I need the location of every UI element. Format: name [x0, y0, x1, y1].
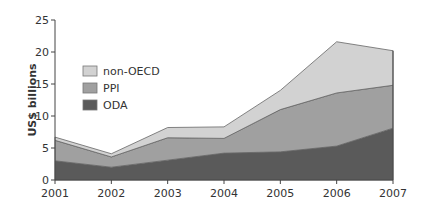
legend-label-oda: ODA: [103, 99, 128, 112]
y-axis-label: US$ billions: [26, 63, 39, 137]
x-tick-label: 2002: [97, 187, 125, 200]
y-tick-label: 5: [42, 142, 49, 155]
x-tick-label: 2001: [41, 187, 69, 200]
x-tick-label: 2004: [210, 187, 238, 200]
y-tick-label: 0: [42, 174, 49, 187]
x-tick-label: 2006: [323, 187, 351, 200]
x-tick-label: 2003: [154, 187, 182, 200]
y-tick-label: 20: [35, 46, 49, 59]
x-tick-label: 2005: [266, 187, 294, 200]
legend-swatch-ppi: [83, 83, 97, 93]
legend-label-ppi: PPI: [103, 82, 120, 95]
x-tick-label: 2007: [379, 187, 407, 200]
stacked-area-chart: 05101520252001200220032004200520062007US…: [0, 0, 425, 214]
legend-label-non-oecd: non-OECD: [103, 65, 160, 78]
y-tick-label: 25: [35, 14, 49, 27]
legend-swatch-oda: [83, 100, 97, 110]
legend-swatch-non-oecd: [83, 66, 97, 76]
